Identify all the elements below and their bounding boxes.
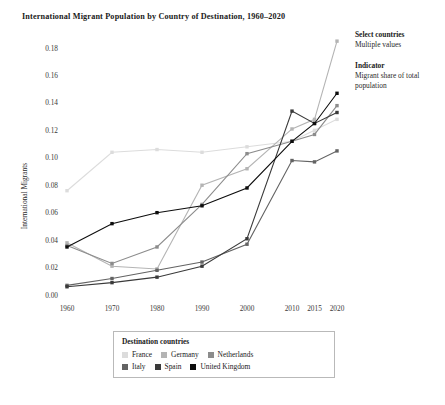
data-point[interactable] (245, 145, 248, 148)
data-point[interactable] (155, 148, 158, 151)
legend-label: Germany (171, 350, 199, 359)
x-tick-label: 1990 (195, 304, 210, 313)
legend-label: France (132, 350, 152, 359)
x-tick-label: 2020 (330, 304, 345, 313)
data-point[interactable] (245, 186, 248, 189)
data-point[interactable] (335, 39, 338, 42)
x-tick-label: 2010 (285, 304, 300, 313)
data-point[interactable] (313, 129, 316, 132)
y-tick-label: 0.12 (45, 126, 58, 135)
series-line (67, 119, 337, 190)
x-axis-tick-labels: 19601970198019902000201020152020 (60, 304, 345, 313)
data-point[interactable] (335, 118, 338, 121)
data-point[interactable] (65, 189, 68, 192)
data-point[interactable] (290, 140, 293, 143)
legend-title: Destination countries (122, 337, 326, 346)
data-point[interactable] (155, 269, 158, 272)
data-point[interactable] (200, 151, 203, 154)
data-point[interactable] (290, 109, 293, 112)
legend-item-netherlands[interactable]: Netherlands (208, 350, 254, 359)
chart-legend: Destination countries FranceGermanyNethe… (113, 331, 335, 378)
data-point[interactable] (313, 122, 316, 125)
data-point[interactable] (110, 281, 113, 284)
y-tick-label: 0.08 (45, 181, 58, 190)
legend-label: Italy (132, 362, 146, 371)
x-tick-label: 1960 (60, 304, 75, 313)
data-point[interactable] (200, 264, 203, 267)
data-point[interactable] (335, 149, 338, 152)
legend-swatch-icon (155, 364, 161, 370)
data-point[interactable] (155, 245, 158, 248)
data-point[interactable] (155, 211, 158, 214)
data-point[interactable] (200, 184, 203, 187)
series-line (67, 93, 337, 247)
data-point[interactable] (335, 104, 338, 107)
y-tick-label: 0.16 (45, 71, 58, 80)
x-tick-label: 1970 (105, 304, 120, 313)
legend-label: Spain (165, 362, 182, 371)
legend-swatch-icon (122, 352, 128, 358)
data-point[interactable] (290, 127, 293, 130)
y-tick-label: 0.10 (45, 153, 58, 162)
data-point[interactable] (245, 152, 248, 155)
y-tick-label: 0.06 (45, 208, 58, 217)
data-point[interactable] (245, 167, 248, 170)
series-united-kingdom (65, 92, 338, 249)
legend-item-italy[interactable]: Italy (122, 362, 146, 371)
y-tick-label: 0.02 (45, 263, 58, 272)
data-point[interactable] (110, 277, 113, 280)
legend-swatch-icon (190, 364, 196, 370)
x-tick-label: 2000 (240, 304, 255, 313)
legend-rows: FranceGermanyNetherlandsItalySpainUnited… (122, 350, 326, 371)
y-axis-title: International Migrants (20, 163, 29, 229)
data-point[interactable] (65, 245, 68, 248)
legend-row: FranceGermanyNetherlands (122, 350, 326, 359)
data-point[interactable] (200, 260, 203, 263)
legend-label: United Kingdom (200, 362, 250, 371)
series-france (65, 118, 338, 193)
x-tick-label: 1980 (150, 304, 165, 313)
legend-swatch-icon (208, 352, 214, 358)
y-tick-label: 0.00 (45, 291, 58, 300)
y-axis-tick-labels: 0.000.020.040.060.080.100.120.140.160.18 (45, 44, 58, 300)
legend-item-united-kingdom[interactable]: United Kingdom (190, 362, 250, 371)
data-point[interactable] (313, 118, 316, 121)
legend-item-spain[interactable]: Spain (155, 362, 182, 371)
legend-item-france[interactable]: France (122, 350, 152, 359)
series-line (67, 41, 337, 269)
y-tick-label: 0.14 (45, 98, 58, 107)
data-point[interactable] (313, 160, 316, 163)
legend-swatch-icon (122, 364, 128, 370)
data-point[interactable] (335, 111, 338, 114)
legend-swatch-icon (161, 352, 167, 358)
data-point[interactable] (245, 237, 248, 240)
data-point[interactable] (110, 151, 113, 154)
legend-label: Netherlands (218, 350, 254, 359)
data-point[interactable] (110, 262, 113, 265)
legend-row: ItalySpainUnited Kingdom (122, 362, 326, 371)
series-layer (65, 39, 338, 288)
data-point[interactable] (200, 204, 203, 207)
data-point[interactable] (155, 275, 158, 278)
y-tick-label: 0.04 (45, 236, 58, 245)
series-germany (65, 39, 338, 270)
y-tick-label: 0.18 (45, 44, 58, 53)
data-point[interactable] (110, 222, 113, 225)
x-tick-label: 2015 (307, 304, 322, 313)
data-point[interactable] (335, 92, 338, 95)
data-point[interactable] (245, 243, 248, 246)
data-point[interactable] (290, 159, 293, 162)
data-point[interactable] (313, 133, 316, 136)
data-point[interactable] (65, 285, 68, 288)
legend-item-germany[interactable]: Germany (161, 350, 199, 359)
